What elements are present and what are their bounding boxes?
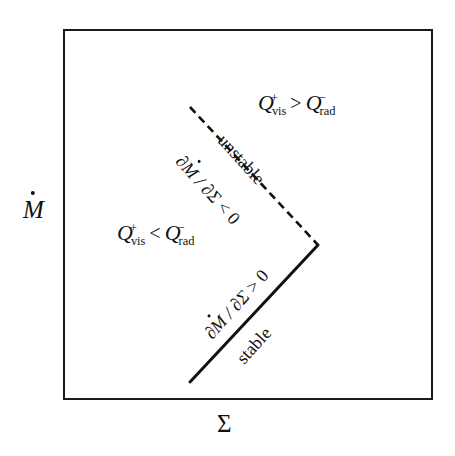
y-axis-label-text: M (23, 196, 44, 223)
q-subscript-left: vis (272, 104, 286, 118)
q-subscript-right: rad (179, 234, 195, 248)
relation-symbol: < (149, 222, 160, 244)
q-subscript-right: rad (320, 104, 336, 118)
x-axis-label: Σ (217, 411, 232, 436)
mdot-overdot (31, 191, 35, 195)
figure-root: M Σ Q+vis>Q−rad Q+vis<Q−rad unstable ∂M … (0, 0, 455, 456)
region-label-lower-left: Q+vis<Q−rad (117, 222, 194, 244)
y-axis-label: M (23, 197, 44, 222)
q-subscript-left: vis (131, 234, 145, 248)
relation-symbol: > (290, 92, 301, 114)
region-label-upper-right: Q+vis>Q−rad (258, 92, 335, 114)
